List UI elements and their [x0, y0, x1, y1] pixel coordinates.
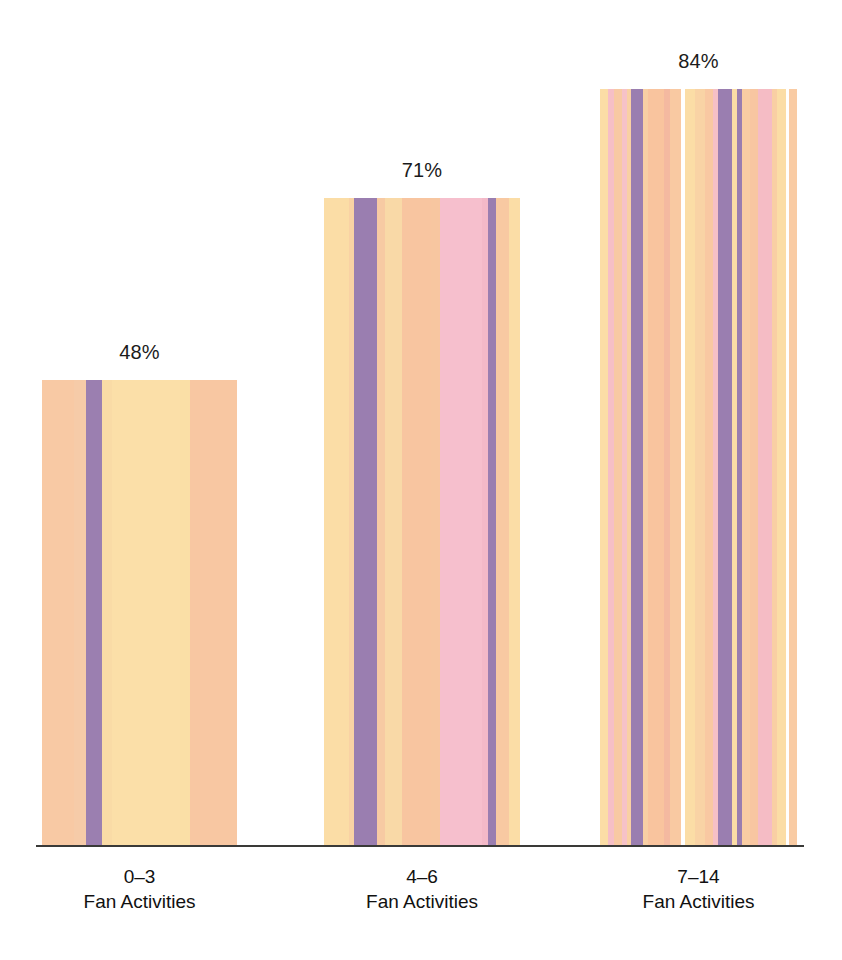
bar-stripe [440, 198, 482, 846]
bar-stripe [74, 380, 86, 846]
bar-chart: 48% 71% 84% 0–3 Fan Activities 4–6 Fan A… [0, 0, 842, 960]
bar-stripe [42, 380, 74, 846]
bar-stripe [112, 380, 180, 846]
bar-stripe [631, 89, 643, 846]
bar-stripe [670, 89, 682, 846]
bar-stripe [488, 198, 497, 846]
bar-stripe [695, 89, 705, 846]
category-range-7-14: 7–14 [600, 864, 797, 889]
x-axis-baseline [36, 845, 804, 847]
bar-stripe [496, 198, 508, 846]
bar-stripe [742, 89, 751, 846]
bar-stripe [86, 380, 102, 846]
value-label-0-3: 48% [42, 341, 237, 364]
bar-stripe [180, 380, 190, 846]
category-label-7-14: 7–14 Fan Activities [600, 864, 797, 914]
bar-stripe [324, 198, 349, 846]
bar-stripe [354, 198, 377, 846]
bar-stripe [758, 89, 772, 846]
bar-stripe [718, 89, 732, 846]
bar-stripe [190, 380, 237, 846]
category-label-4-6: 4–6 Fan Activities [324, 864, 520, 914]
bar-stripe [600, 89, 608, 846]
bar-group-4-6: 71% [324, 0, 520, 846]
x-axis-category-labels: 0–3 Fan Activities 4–6 Fan Activities 7–… [0, 860, 842, 940]
category-label-0-3: 0–3 Fan Activities [42, 864, 237, 914]
bar-stripe [750, 89, 758, 846]
bar-group-0-3: 48% [42, 0, 237, 846]
bar-stripe [102, 380, 112, 846]
bar-group-7-14: 84% [600, 0, 797, 846]
category-name-0-3: Fan Activities [42, 889, 237, 914]
bar-7-14[interactable] [600, 89, 797, 846]
plot-area: 48% 71% 84% [0, 0, 842, 846]
category-range-4-6: 4–6 [324, 864, 520, 889]
bar-stripe [648, 89, 664, 846]
bar-stripe [789, 89, 797, 846]
bar-0-3[interactable] [42, 380, 237, 846]
bar-stripe [509, 198, 520, 846]
bar-stripe [385, 198, 402, 846]
bar-stripe [705, 89, 714, 846]
category-name-7-14: Fan Activities [600, 889, 797, 914]
value-label-4-6: 71% [324, 159, 520, 182]
bar-stripe [377, 198, 385, 846]
bar-stripe [614, 89, 623, 846]
bar-stripe [402, 198, 431, 846]
bar-stripe [685, 89, 695, 846]
category-name-4-6: Fan Activities [324, 889, 520, 914]
bar-4-6[interactable] [324, 198, 520, 846]
value-label-7-14: 84% [600, 50, 797, 73]
category-range-0-3: 0–3 [42, 864, 237, 889]
bar-stripe [431, 198, 441, 846]
bar-stripe [777, 89, 786, 846]
